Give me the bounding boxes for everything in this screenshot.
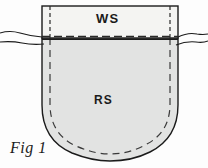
figure-container: WS RS Fig 1 xyxy=(0,0,208,168)
right-fabric-edge-upper xyxy=(178,33,208,37)
figure-caption: Fig 1 xyxy=(10,139,47,157)
left-fabric-edge-lower xyxy=(0,42,44,45)
right-fabric-edge-lower xyxy=(176,41,208,45)
label-wrong-side: WS xyxy=(96,11,119,26)
left-fabric-edge-upper xyxy=(0,32,42,38)
label-right-side: RS xyxy=(94,93,113,107)
